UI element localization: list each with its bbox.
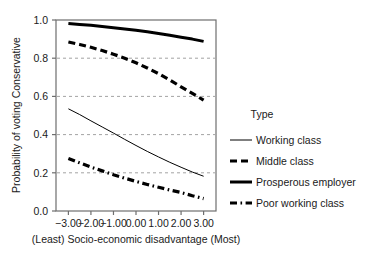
x-axis-tick-label: 2.00 xyxy=(171,217,192,229)
y-axis-tick-label: 0.0 xyxy=(33,205,48,217)
legend-item-label: Poor working class xyxy=(256,197,344,209)
y-axis-tick-label: 0.8 xyxy=(33,52,48,64)
x-axis-tick-label: 3.00 xyxy=(193,217,214,229)
y-axis-tick-label: 1.0 xyxy=(33,14,48,26)
x-axis-tick-label: 0.00 xyxy=(126,217,147,229)
legend-item-label: Middle class xyxy=(256,155,314,167)
legend-item-label: Working class xyxy=(256,134,321,146)
legend-item-label: Prosperous employer xyxy=(256,176,356,188)
y-axis-title: Probability of voting Conservative xyxy=(10,37,22,193)
probability-of-voting-conservative-chart: 1.00.80.60.40.20.0 −3.00−2.00−1.000.001.… xyxy=(0,0,369,260)
x-axis-tick-label: −1.00 xyxy=(100,217,127,229)
chart-figure: 1.00.80.60.40.20.0 −3.00−2.00−1.000.001.… xyxy=(0,0,369,260)
y-axis-tick-label: 0.4 xyxy=(33,128,48,140)
x-axis-title: (Least) Socio-economic disadvantage (Mos… xyxy=(32,233,240,245)
x-axis-tick-label: 1.00 xyxy=(148,217,169,229)
y-axis-tick-label: 0.6 xyxy=(33,90,48,102)
y-axis-tick-label: 0.2 xyxy=(33,167,48,179)
legend-title: Type xyxy=(251,108,274,120)
